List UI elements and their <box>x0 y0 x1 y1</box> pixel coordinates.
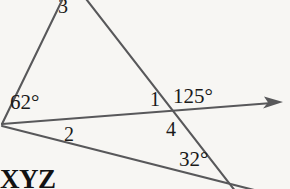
angle-label-125: 125° <box>173 86 213 107</box>
angle-label-32: 32° <box>179 149 208 170</box>
angle-label-4: 4 <box>166 119 176 139</box>
figure-caption: XYZ <box>0 166 56 189</box>
angle-label-1: 1 <box>150 89 160 109</box>
angle-label-2: 2 <box>64 124 74 144</box>
angle-label-62: 62° <box>10 92 39 113</box>
geometry-figure: 3 62° 2 1 125° 4 32° XYZ <box>0 0 290 189</box>
angle-label-3: 3 <box>58 0 68 16</box>
horizontal-ray <box>2 103 272 124</box>
diagram-lines <box>0 0 290 189</box>
